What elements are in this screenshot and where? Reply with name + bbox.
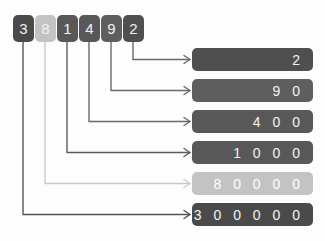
value-box-tens[interactable]: 9 0 (192, 79, 313, 102)
digit-tile-ones[interactable]: 2 (123, 15, 144, 42)
digit-tile-thousands[interactable]: 1 (57, 15, 78, 42)
digit-tile-label: 8 (41, 21, 49, 36)
place-value-diagram: 381492 29 04 0 01 0 0 08 0 0 0 03 0 0 0 … (0, 0, 325, 241)
digit-tile-label: 1 (63, 21, 71, 36)
value-box-ones[interactable]: 2 (192, 48, 313, 71)
digit-tile-hundreds[interactable]: 4 (79, 15, 100, 42)
value-box-label: 2 (292, 53, 304, 67)
value-box-label: 8 0 0 0 0 (214, 177, 305, 191)
value-box-hundred-thousands[interactable]: 3 0 0 0 0 0 (192, 203, 313, 226)
value-box-label: 3 0 0 0 0 0 (194, 208, 304, 222)
connector-line-ones (133, 42, 190, 60)
digit-tile-tens[interactable]: 9 (101, 15, 122, 42)
connector-line-hundred-thousands (23, 42, 190, 215)
connector-line-hundreds (89, 42, 190, 122)
connector-group (23, 42, 190, 219)
digit-tile-label: 3 (19, 21, 27, 36)
digit-tile-hundred-thousands[interactable]: 3 (13, 15, 34, 42)
digit-tile-label: 2 (129, 21, 137, 36)
value-box-label: 1 0 0 0 (233, 146, 304, 160)
value-box-hundreds[interactable]: 4 0 0 (192, 110, 313, 133)
value-box-label: 4 0 0 (253, 115, 304, 129)
digit-tile-label: 4 (85, 21, 93, 36)
value-box-thousands[interactable]: 1 0 0 0 (192, 141, 313, 164)
value-box-label: 9 0 (273, 84, 304, 98)
connector-line-thousands (67, 42, 190, 153)
digit-tile-ten-thousands[interactable]: 8 (35, 15, 56, 42)
value-box-ten-thousands[interactable]: 8 0 0 0 0 (192, 172, 313, 195)
connector-line-tens (111, 42, 190, 91)
digit-tile-label: 9 (107, 21, 115, 36)
